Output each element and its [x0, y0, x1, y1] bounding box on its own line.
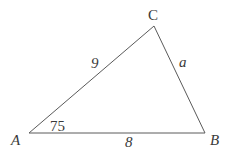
- triangle-diagram: C A B 9 a 8 75: [0, 0, 225, 159]
- side-label-ac: 9: [91, 56, 99, 71]
- vertex-label-c: C: [148, 8, 158, 23]
- side-label-ab: 8: [125, 135, 133, 150]
- side-label-cb: a: [179, 55, 187, 70]
- angle-label-a: 75: [50, 119, 65, 134]
- triangle-abc: [29, 26, 205, 133]
- vertex-label-b: B: [210, 133, 219, 148]
- triangle-figure: [0, 0, 225, 159]
- vertex-label-a: A: [11, 133, 20, 148]
